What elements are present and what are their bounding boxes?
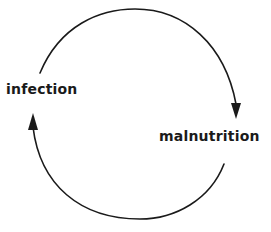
arrowhead-icon [231, 103, 241, 119]
node-infection: infection [6, 81, 78, 97]
node-malnutrition: malnutrition [159, 128, 260, 144]
cycle-diagram [0, 0, 271, 232]
arrowhead-icon [28, 113, 38, 130]
